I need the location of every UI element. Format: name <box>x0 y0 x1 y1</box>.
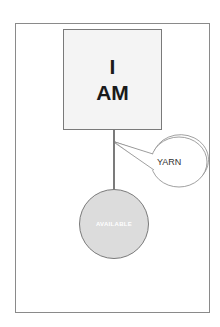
box-line-1: I <box>110 54 116 80</box>
i-am-box: I AM <box>63 29 162 130</box>
circle-label: AVAILABLE <box>96 221 132 227</box>
yarn-bubble-label: YARN <box>157 157 181 167</box>
available-circle: AVAILABLE <box>79 189 149 259</box>
box-line-2: AM <box>96 80 129 106</box>
